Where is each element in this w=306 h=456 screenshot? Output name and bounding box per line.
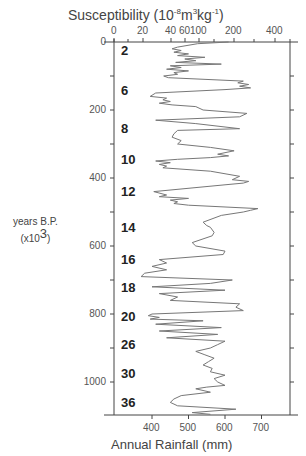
rainfall-plot [0,0,306,456]
rainfall-line [141,42,258,414]
